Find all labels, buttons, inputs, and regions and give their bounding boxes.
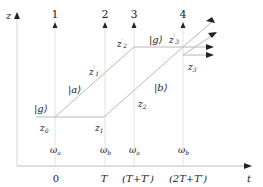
freq-label-3: ωa [129,145,140,156]
state-label-b: |b⟩ [154,82,168,94]
pos-label-z3: z3 [187,62,197,73]
t-axis-arrow-icon [244,163,252,169]
state-label-g-left: |g⟩ [34,103,48,115]
z-axis-arrow-icon [14,12,20,19]
pulse-arrow-icon-1 [53,22,58,28]
pulse-label-3: 3 [131,8,138,21]
time-tick-T-plus-Tp: (T+T′) [122,173,154,184]
path-a [55,47,134,117]
time-tick-0: 0 [53,173,59,184]
freq-label-4: ωb [178,145,189,156]
output-arrows [206,17,217,58]
atom-interferometer-diagram: z t 1 2 3 4 [0,0,263,187]
frequency-labels: ωa ωb ωa ωb [50,145,189,156]
time-tick-T: T [101,173,109,184]
pos-label-z2: z2 [137,99,147,110]
pos-label-z1: z1 [94,123,104,134]
pos-label-z2-prime: z′2 [116,37,127,49]
pulse-arrow-icon-2 [103,22,108,28]
time-tick-labels: 0 T (T+T′) (2T+T′) [53,173,207,184]
z-axis-label: z [5,10,12,21]
freq-label-2: ωb [100,145,111,156]
output-arrow-icon-4 [206,52,214,58]
pulse-arrow-icon-4 [181,22,186,28]
freq-label-1: ωa [50,145,61,156]
z-axis: z [5,10,20,166]
pulse-label-2: 2 [102,8,109,21]
t-axis-label: t [247,173,252,184]
output-arrow-icon-3 [206,44,214,50]
pulse-arrow-icon-3 [132,22,137,28]
state-label-a: |a⟩ [68,84,81,96]
time-tick-2T-plus-Tp: (2T+T′) [169,173,207,184]
pos-label-z3-prime: z′3 [168,33,179,45]
pulse-label-4: 4 [180,8,187,21]
pos-label-z1-prime: z′1 [88,65,99,77]
pos-label-z0: z0 [39,123,49,134]
position-labels: z0 z1 z′1 z2 z′2 z3 z′3 [39,33,197,134]
pulse-label-1: 1 [52,8,59,21]
state-label-g-right: |g⟩ [149,34,163,46]
